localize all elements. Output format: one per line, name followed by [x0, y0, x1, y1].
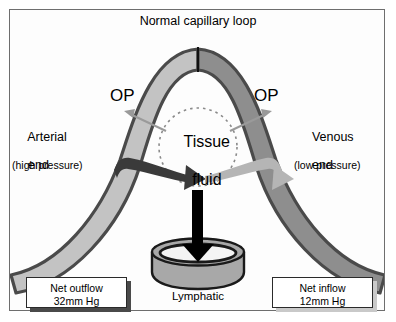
arterial-pressure-label: (high pressure)	[12, 160, 112, 172]
net-outflow-box: Net outflow 32mm Hg	[26, 277, 127, 308]
net-outflow-line2: 32mm Hg	[54, 295, 100, 307]
tissue-fluid-label: Tissue fluid	[156, 114, 240, 208]
op-right-label: OP	[254, 86, 279, 105]
venous-end-line1: Venous	[312, 130, 354, 144]
lymphatic-label: Lymphatic	[150, 290, 246, 303]
tissue-fluid-line2: fluid	[192, 171, 221, 188]
tissue-fluid-line1: Tissue	[183, 133, 230, 150]
net-inflow-box: Net inflow 12mm Hg	[272, 277, 373, 308]
venous-end-label: Venous end	[298, 116, 390, 200]
arterial-end-label: Arterial end	[14, 116, 106, 200]
capillary-loop-figure: Normal capillary loop Arterial end (high…	[0, 0, 396, 322]
net-inflow-line1: Net inflow	[299, 282, 345, 294]
net-outflow-line1: Net outflow	[50, 282, 103, 294]
op-left-label: OP	[110, 86, 135, 105]
venous-pressure-label: (low pressure)	[294, 160, 394, 172]
page-title: Normal capillary loop	[0, 14, 396, 28]
net-inflow-line2: 12mm Hg	[300, 295, 346, 307]
arterial-end-line1: Arterial	[27, 130, 67, 144]
